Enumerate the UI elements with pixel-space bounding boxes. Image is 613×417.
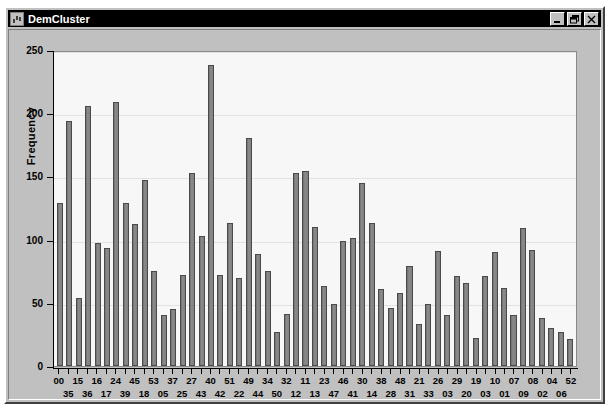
- bar[interactable]: [492, 252, 498, 366]
- bar[interactable]: [142, 180, 148, 366]
- bar[interactable]: [482, 276, 488, 366]
- bar[interactable]: [236, 278, 242, 366]
- y-axis-tick: [47, 51, 53, 52]
- bar[interactable]: [208, 65, 214, 366]
- bar[interactable]: [539, 318, 545, 366]
- bar[interactable]: [284, 314, 290, 366]
- restore-button[interactable]: [567, 12, 582, 26]
- x-axis-tick-label: 43: [196, 388, 207, 399]
- x-axis-tick-label: 36: [82, 388, 93, 399]
- bar[interactable]: [558, 332, 564, 366]
- bar-slot: [301, 52, 310, 366]
- bar-slot: [461, 52, 470, 366]
- bar[interactable]: [321, 286, 327, 366]
- x-tick-slot: [339, 369, 348, 374]
- bar-chart: Frequency 050100150200250 00351536161724…: [9, 30, 601, 400]
- bar[interactable]: [132, 224, 138, 366]
- bar[interactable]: [378, 289, 384, 366]
- x-tick-slot: [452, 369, 461, 374]
- bar-slot: [282, 52, 291, 366]
- bar[interactable]: [473, 338, 479, 366]
- window-menu-icon[interactable]: [10, 12, 24, 26]
- bar[interactable]: [66, 121, 72, 366]
- bar[interactable]: [501, 288, 507, 366]
- bar[interactable]: [95, 243, 101, 366]
- bar[interactable]: [397, 293, 403, 366]
- x-tick-slot: [443, 369, 452, 374]
- close-button[interactable]: [584, 12, 599, 26]
- bar[interactable]: [189, 173, 195, 366]
- bar[interactable]: [510, 315, 516, 366]
- minimize-button[interactable]: [550, 12, 565, 26]
- bar[interactable]: [425, 304, 431, 366]
- x-axis-tick-label: 26: [433, 375, 444, 386]
- bar[interactable]: [255, 254, 261, 366]
- x-axis-tick-label: 07: [509, 375, 520, 386]
- bar[interactable]: [520, 228, 526, 366]
- bar[interactable]: [340, 241, 346, 366]
- bar-slot: [74, 52, 83, 366]
- bar[interactable]: [454, 276, 460, 366]
- bar[interactable]: [161, 315, 167, 366]
- bar-slot: [112, 52, 121, 366]
- bar[interactable]: [85, 106, 91, 366]
- x-axis-tick-label: 05: [158, 388, 169, 399]
- x-axis-tick: [400, 369, 401, 374]
- bar[interactable]: [113, 102, 119, 366]
- bar[interactable]: [359, 183, 365, 366]
- bar[interactable]: [57, 203, 63, 366]
- x-axis-tick: [115, 369, 116, 374]
- bar[interactable]: [123, 203, 129, 366]
- x-tick-slot: [196, 369, 205, 374]
- bar-slot: [339, 52, 348, 366]
- bar-slot: [518, 52, 527, 366]
- bar[interactable]: [312, 227, 318, 366]
- x-axis-tick-label: 25: [177, 388, 188, 399]
- bar-slot: [102, 52, 111, 366]
- x-axis-tick: [191, 369, 192, 374]
- bar[interactable]: [302, 171, 308, 366]
- y-axis-tick-label: 0: [9, 361, 43, 372]
- x-tick-slot: [348, 369, 357, 374]
- x-tick-slot: [386, 369, 395, 374]
- y-axis-tick: [47, 241, 53, 242]
- bar[interactable]: [104, 248, 110, 366]
- bar[interactable]: [350, 238, 356, 366]
- bar[interactable]: [388, 308, 394, 366]
- y-axis-tick: [47, 304, 53, 305]
- bar[interactable]: [444, 315, 450, 366]
- bar-slot: [443, 52, 452, 366]
- y-axis-tick-label: 100: [9, 235, 43, 246]
- bar[interactable]: [293, 173, 299, 366]
- x-tick-slot: [490, 369, 499, 374]
- bar[interactable]: [274, 332, 280, 366]
- bar-slot: [528, 52, 537, 366]
- plot-area: [53, 51, 577, 367]
- bar[interactable]: [227, 223, 233, 366]
- x-tick-slot: [471, 369, 480, 374]
- bar[interactable]: [369, 223, 375, 366]
- bar[interactable]: [217, 275, 223, 366]
- x-axis-tick-label: 27: [186, 375, 197, 386]
- bar[interactable]: [151, 271, 157, 366]
- bar[interactable]: [170, 309, 176, 366]
- x-axis-tick: [542, 369, 543, 374]
- x-tick-slot: [424, 369, 433, 374]
- x-axis-tick-label: 11: [300, 375, 310, 386]
- bar[interactable]: [567, 339, 573, 366]
- bar[interactable]: [76, 298, 82, 366]
- bar[interactable]: [199, 236, 205, 366]
- bar[interactable]: [435, 251, 441, 366]
- bar[interactable]: [406, 266, 412, 366]
- bar[interactable]: [180, 275, 186, 366]
- bar[interactable]: [246, 138, 252, 366]
- bar-slot: [480, 52, 489, 366]
- bar[interactable]: [416, 324, 422, 366]
- bar[interactable]: [529, 250, 535, 366]
- bar[interactable]: [331, 304, 337, 366]
- title-bar[interactable]: DemCluster: [8, 10, 601, 27]
- bar[interactable]: [265, 271, 271, 366]
- bar[interactable]: [463, 283, 469, 366]
- bar[interactable]: [548, 328, 554, 366]
- x-tick-slot: [149, 369, 158, 374]
